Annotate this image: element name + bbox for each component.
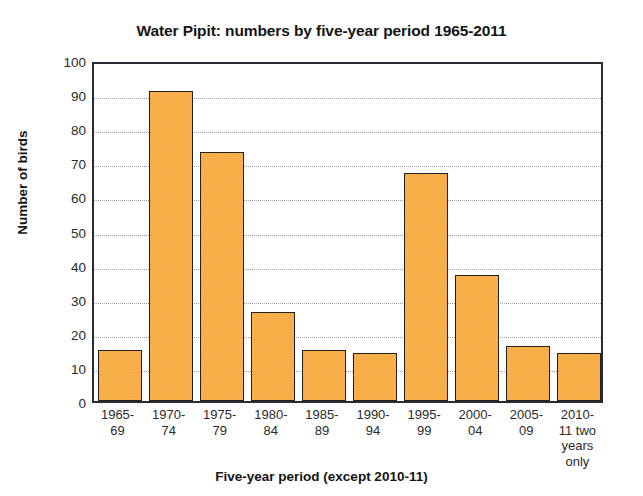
x-axis-tick-label-line: 84 [245,423,296,439]
y-axis-tick-label: 10 [44,361,86,376]
y-axis-tick-label: 20 [44,327,86,342]
x-axis-tick-label-line: 74 [143,423,194,439]
x-axis-tick-label: 1965-69 [92,407,143,438]
x-axis-tick-label-line: 2010- [552,407,603,423]
x-axis-tick-label-line: 99 [399,423,450,439]
x-axis-tick-label-line: 1970- [143,407,194,423]
x-axis-tick-label-line: 89 [296,423,347,439]
bar [353,353,397,401]
bars-layer [94,64,601,401]
x-axis-tick-label-line: 1990- [348,407,399,423]
x-axis-tick-label-line: only [552,454,603,470]
x-axis-title: Five-year period (except 2010-11) [0,469,643,484]
bar [98,350,142,401]
x-axis-tick-label-line: 2005- [501,407,552,423]
x-axis-tick-label-line: 1995- [399,407,450,423]
y-axis-tick-label: 30 [44,293,86,308]
y-axis-tick-label: 100 [44,55,86,70]
y-axis-tick-label: 40 [44,259,86,274]
y-axis-title: Number of birds [15,113,30,253]
x-axis-tick-label-line: years [552,438,603,454]
y-axis-tick-label: 90 [44,89,86,104]
x-axis-tick-label-line: 2000- [450,407,501,423]
x-axis-tick-label: 1980-84 [245,407,296,438]
y-axis-tick-label: 70 [44,157,86,172]
x-axis-tick-label-line: 1975- [194,407,245,423]
x-axis-tick-label-line: 1965- [92,407,143,423]
bar-chart-figure: Water Pipit: numbers by five-year period… [0,0,643,496]
bar [506,346,550,401]
x-axis-tick-label-line: 94 [348,423,399,439]
bar [251,312,295,401]
bar [149,91,193,401]
x-axis-tick-label-line: 09 [501,423,552,439]
x-axis-tick-label: 1985-89 [296,407,347,438]
y-axis-tick-label: 0 [44,396,86,411]
bar [557,353,601,401]
bar [404,173,448,401]
bar [455,275,499,401]
x-axis-tick-label-line: 04 [450,423,501,439]
x-axis-tick-label-line: 1985- [296,407,347,423]
y-axis-tick-label: 50 [44,225,86,240]
plot-area [92,62,603,403]
x-axis-tick-label-line: 79 [194,423,245,439]
x-axis-tick-label-line: 69 [92,423,143,439]
bar [200,152,244,401]
x-axis-tick-label: 2010-11 twoyearsonly [552,407,603,469]
x-axis-tick-label-line: 11 two [552,423,603,439]
x-axis-tick-label: 1970-74 [143,407,194,438]
y-axis-tick-label: 80 [44,123,86,138]
chart-title: Water Pipit: numbers by five-year period… [0,22,643,40]
x-axis-tick-label: 1990-94 [348,407,399,438]
x-axis-tick-label: 1995-99 [399,407,450,438]
x-axis-tick-label: 2005-09 [501,407,552,438]
x-axis-tick-label: 1975-79 [194,407,245,438]
x-axis-tick-label-line: 1980- [245,407,296,423]
bar [302,350,346,401]
y-axis-tick-labels: 0102030405060708090100 [44,62,86,403]
y-axis-tick-label: 60 [44,191,86,206]
x-axis-tick-label: 2000-04 [450,407,501,438]
